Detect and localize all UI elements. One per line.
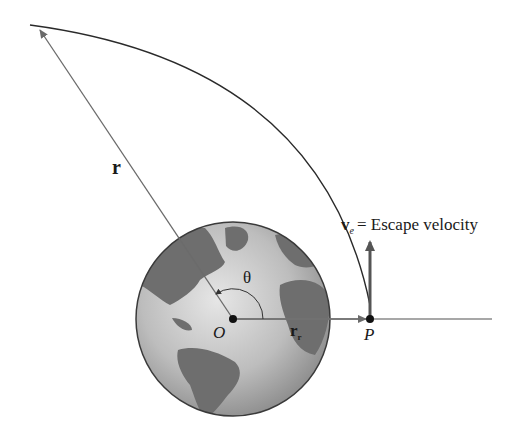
ve-description: = Escape velocity — [357, 215, 478, 234]
point-p-label: P — [363, 325, 374, 344]
origin-label: O — [213, 323, 225, 342]
point-p — [366, 315, 374, 323]
escape-velocity-diagram: r θ O rr P ve= Escape velocity — [0, 0, 527, 443]
escape-velocity-label: ve= Escape velocity — [341, 215, 478, 236]
r0-subscript: r — [298, 332, 302, 342]
ve-subscript: e — [350, 225, 355, 236]
origin-point — [229, 315, 237, 323]
theta-label: θ — [243, 268, 251, 287]
r-vector — [40, 30, 233, 319]
r-label: r — [112, 156, 121, 178]
